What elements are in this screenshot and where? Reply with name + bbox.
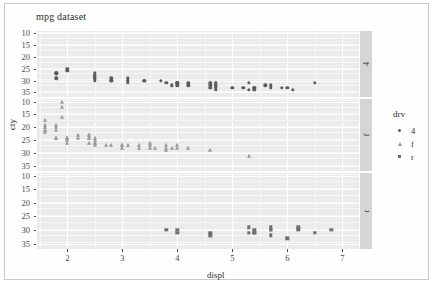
grid-major-h [37, 92, 359, 93]
facet-strip-4: 4 [360, 31, 372, 97]
legend-item-f[interactable]: f [393, 137, 415, 150]
grid-major-v [122, 99, 123, 171]
legend-item-label: 4 [411, 126, 415, 136]
data-point [175, 146, 179, 150]
data-point [148, 146, 152, 150]
y-tick-label: 25 [22, 64, 31, 74]
y-tick-mark [34, 140, 36, 141]
data-point [104, 143, 108, 147]
y-tick-label: 30 [22, 225, 31, 235]
grid-major-h [37, 81, 359, 82]
grid-minor-h [37, 222, 359, 223]
grid-minor-v [150, 99, 151, 171]
data-point [247, 81, 250, 84]
grid-minor-h [37, 38, 359, 39]
data-point [170, 84, 173, 87]
grid-minor-v [315, 99, 316, 171]
grid-major-h [37, 230, 359, 231]
grid-major-h [37, 244, 359, 245]
data-point [313, 81, 316, 84]
y-tick-label: 35 [22, 239, 31, 249]
grid-major-h [37, 69, 359, 70]
data-point [66, 69, 69, 72]
grid-minor-h [37, 181, 359, 182]
data-point [313, 231, 316, 234]
data-point [208, 148, 212, 152]
y-tick-mark [34, 127, 36, 128]
facet-strip-r: r [360, 173, 372, 249]
y-tick-label: 25 [22, 135, 31, 145]
square-icon [393, 155, 406, 159]
grid-minor-v [95, 31, 96, 97]
facet-strip-label: 4 [362, 62, 371, 66]
data-point [231, 86, 234, 89]
circle-icon [393, 129, 406, 133]
grid-major-h [37, 33, 359, 34]
facet-panel-f [37, 99, 359, 171]
data-point [264, 84, 267, 87]
y-tick-label: 35 [22, 161, 31, 171]
grid-minor-v [150, 173, 151, 249]
data-point [209, 86, 212, 89]
y-tick-mark [34, 45, 36, 46]
x-tick-label: 5 [230, 253, 234, 263]
data-point [297, 226, 300, 229]
facet-strip-label: r [362, 210, 371, 213]
x-tick-label: 3 [120, 253, 124, 263]
data-point [286, 236, 289, 239]
data-point [164, 148, 168, 152]
legend-item-4[interactable]: 4 [393, 124, 415, 137]
legend-item-label: r [411, 152, 414, 162]
y-tick-label: 20 [22, 122, 31, 132]
grid-minor-v [95, 173, 96, 249]
data-point [209, 234, 212, 237]
data-point [269, 228, 272, 231]
grid-minor-v [260, 173, 261, 249]
y-tick-mark [34, 244, 36, 245]
legend-item-r[interactable]: r [393, 150, 415, 163]
grid-minor-v [205, 99, 206, 171]
y-tick-mark [34, 57, 36, 58]
grid-minor-v [315, 31, 316, 97]
data-point [280, 86, 283, 89]
grid-minor-v [40, 173, 41, 249]
data-point [170, 146, 174, 150]
facet-strip-f: f [360, 99, 372, 171]
grid-minor-h [37, 145, 359, 146]
data-point [247, 226, 250, 229]
data-point [269, 86, 272, 89]
grid-major-h [37, 189, 359, 190]
grid-minor-v [205, 173, 206, 249]
legend-title: drv [393, 109, 415, 119]
grid-major-h [37, 45, 359, 46]
data-point [176, 228, 179, 231]
x-tick-label: 4 [175, 253, 179, 263]
data-point [43, 128, 47, 132]
grid-minor-h [37, 120, 359, 121]
x-axis-label: displ [207, 270, 225, 280]
x-tick-mark [342, 249, 343, 252]
y-tick-mark [34, 114, 36, 115]
y-tick-label: 15 [22, 109, 31, 119]
data-point [165, 81, 168, 84]
data-point [242, 86, 245, 89]
y-tick-mark [34, 81, 36, 82]
grid-major-v [232, 173, 233, 249]
facet-strip-label: f [362, 134, 371, 137]
x-tick-label: 2 [65, 253, 69, 263]
grid-minor-h [37, 62, 359, 63]
grid-major-h [37, 216, 359, 217]
data-point [120, 143, 124, 147]
chart-frame: mpg dataset cty displ 4 f r 353025201510… [4, 3, 429, 280]
data-point [143, 79, 146, 82]
grid-major-v [287, 99, 288, 171]
y-tick-label: 30 [22, 76, 31, 86]
grid-minor-v [150, 31, 151, 97]
grid-major-v [342, 173, 343, 249]
y-tick-mark [34, 216, 36, 217]
data-point [253, 231, 256, 234]
data-point [93, 79, 96, 82]
grid-minor-v [260, 99, 261, 171]
grid-minor-v [260, 31, 261, 97]
data-point [186, 146, 190, 150]
